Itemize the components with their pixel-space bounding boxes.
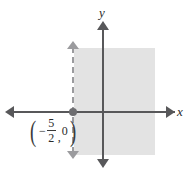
fraction-numerator: 5 <box>47 117 55 129</box>
inequality-graph-figure: y x ( − 5 2 , 0 ) <box>0 0 194 172</box>
label-y-value: 0 <box>62 125 68 137</box>
label-open-paren: ( <box>30 119 36 143</box>
label-comma: , <box>58 131 61 144</box>
label-negative-sign: − <box>39 125 46 137</box>
y-axis-line <box>102 27 104 166</box>
x-axis-left-arrow-icon <box>5 106 14 118</box>
boundary-top-arrow-icon <box>67 41 79 49</box>
shaded-solution-region <box>74 48 155 155</box>
y-axis-top-arrow-icon <box>97 21 109 30</box>
label-close-paren: ) <box>70 119 76 143</box>
x-axis-right-arrow-icon <box>166 106 175 118</box>
y-axis-bottom-arrow-icon <box>97 159 109 168</box>
y-axis-label: y <box>99 6 105 19</box>
x-intercept-label: ( − 5 2 , 0 ) <box>28 117 78 144</box>
label-fraction: 5 2 <box>47 117 56 144</box>
boundary-bottom-arrow-icon <box>67 151 79 159</box>
x-axis-line <box>12 111 175 113</box>
fraction-denominator: 2 <box>47 132 55 144</box>
x-axis-label: x <box>177 105 183 118</box>
